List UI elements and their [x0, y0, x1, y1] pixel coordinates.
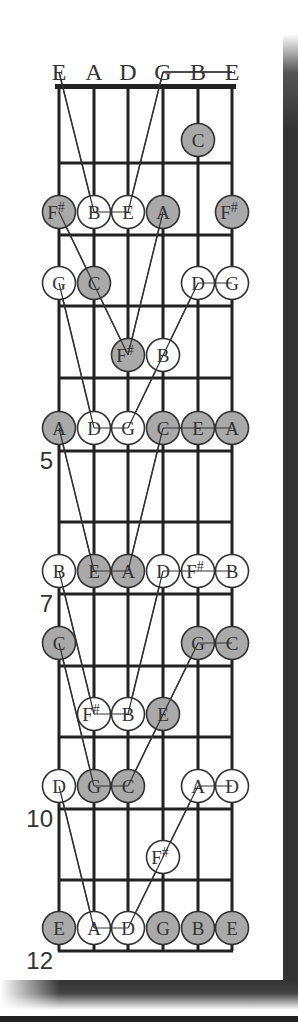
note-label: E	[226, 918, 238, 939]
fretboard-diagram: EADGBE CF#BEAF#GCDGF#BADGCEABEADF#BCGCF#…	[0, 0, 298, 1022]
fret-number-12: 12	[26, 947, 53, 974]
note-dot: F#	[216, 196, 249, 229]
connection-line-overlay	[59, 786, 94, 928]
connection-line-overlay	[128, 72, 163, 212]
connection-line-overlay	[128, 571, 163, 714]
note-dot: E	[216, 912, 249, 945]
note-dot: E	[43, 912, 76, 945]
fret-number-7: 7	[40, 590, 53, 617]
nut	[55, 84, 236, 89]
note-dot: C	[78, 267, 111, 300]
connection-line-overlay	[59, 428, 94, 571]
note-dot: G	[147, 912, 180, 945]
fret-number-5: 5	[40, 447, 53, 474]
connection-line-overlay	[59, 72, 94, 212]
note-label: E	[53, 918, 65, 939]
fret-numbers: 571012	[26, 447, 53, 974]
fret-number-10: 10	[26, 805, 53, 832]
note-label: G	[156, 918, 170, 939]
connection-line-overlay	[128, 212, 163, 355]
string-label-1: A	[85, 59, 103, 85]
note-dot: B	[182, 912, 215, 945]
note-label: B	[192, 918, 205, 939]
note-dot: C	[182, 124, 215, 157]
string-label-2: D	[119, 59, 136, 85]
note-label: C	[192, 130, 205, 151]
note-dots: CF#BEAF#GCDGF#BADGCEABEADF#BCGCF#BEDGCAD…	[43, 72, 249, 945]
connection-line-overlay	[128, 428, 163, 571]
